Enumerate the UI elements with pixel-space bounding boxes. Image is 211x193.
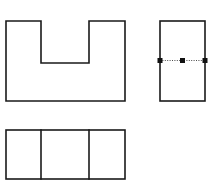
top-view[interactable] <box>0 0 211 193</box>
drawing-canvas <box>0 0 211 193</box>
top-view-outline[interactable] <box>6 130 125 179</box>
